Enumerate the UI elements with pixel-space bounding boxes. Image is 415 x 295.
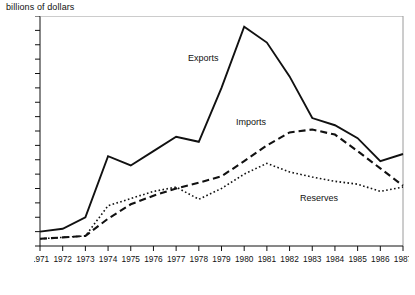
x-tick-label: 1978 <box>190 254 209 264</box>
series-line-exports <box>40 27 403 232</box>
x-tick-label: 1986 <box>371 254 390 264</box>
x-tick-label: 1981 <box>258 254 277 264</box>
x-tick-label: 1985 <box>348 254 367 264</box>
plot-area: 0204060801001201401601802002202402602803… <box>34 16 409 270</box>
x-tick-label: 1977 <box>167 254 186 264</box>
x-tick-label: 1983 <box>303 254 322 264</box>
y-axis-title: billions of dollars <box>6 2 74 12</box>
x-tick-label: 1980 <box>235 254 254 264</box>
series-annotation-exports: Exports <box>188 53 219 63</box>
x-tick-label: 1987 <box>394 254 409 264</box>
x-tick-label: 1972 <box>53 254 72 264</box>
x-tick-label: 1974 <box>99 254 118 264</box>
series-line-reserves <box>40 163 403 238</box>
series-line-imports <box>40 130 403 239</box>
chart-root: billions of dollars 02040608010012014016… <box>0 0 415 295</box>
x-tick-label: 1975 <box>122 254 141 264</box>
x-tick-label: 1984 <box>326 254 345 264</box>
series-annotation-reserves: Reserves <box>300 193 339 203</box>
series-annotation-imports: Imports <box>236 117 267 127</box>
x-tick-label: 1971 <box>34 254 50 264</box>
line-chart-svg: 0204060801001201401601802002202402602803… <box>34 16 409 270</box>
x-tick-label: 1973 <box>76 254 95 264</box>
x-tick-label: 1976 <box>144 254 163 264</box>
x-tick-label: 1979 <box>212 254 231 264</box>
x-tick-label: 1982 <box>280 254 299 264</box>
